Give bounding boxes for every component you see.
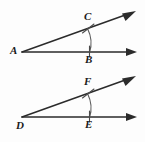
lower-angle-upper-ray	[22, 79, 128, 117]
upper-angle-upper-ray-arrowhead	[122, 11, 136, 21]
point-label-C: C	[84, 11, 91, 22]
point-label-D: D	[16, 120, 24, 131]
point-label-E: E	[85, 119, 92, 130]
point-label-B: B	[85, 54, 92, 65]
upper-angle-upper-ray	[22, 14, 128, 52]
lower-angle-upper-ray-arrowhead	[122, 76, 136, 86]
point-label-A: A	[10, 45, 17, 56]
upper-angle-lower-ray-arrowhead	[126, 48, 137, 56]
angle-upper-group	[22, 11, 137, 57]
lower-angle-lower-ray-arrowhead	[126, 113, 137, 121]
upper-angle-tick-upper	[83, 24, 95, 33]
angle-lower-group	[22, 76, 137, 122]
point-label-F: F	[84, 76, 91, 87]
lower-angle-tick-upper	[83, 89, 95, 98]
geometry-figure: A C B D F E	[0, 0, 145, 142]
